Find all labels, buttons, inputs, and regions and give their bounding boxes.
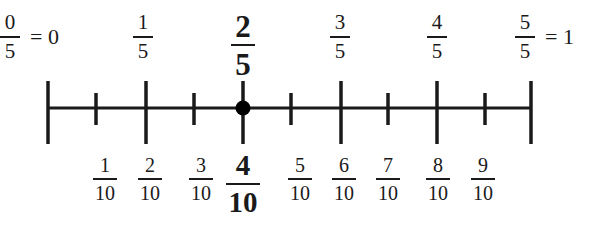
label-3-5: 3 5 — [330, 12, 350, 62]
numerator: 5 — [295, 155, 305, 175]
highlight-point — [236, 101, 251, 116]
numerator: 2 — [145, 155, 155, 175]
fraction-bar — [288, 178, 312, 180]
label-2-5: 2 5 — [231, 11, 255, 80]
denominator: 10 — [140, 183, 160, 203]
denominator: 10 — [378, 183, 398, 203]
label-5-5: 5 5 — [515, 12, 535, 62]
label-4-10: 4 10 — [226, 151, 260, 217]
fraction-bar — [189, 178, 213, 180]
equals-zero: = 0 — [30, 24, 59, 50]
numerator: 7 — [383, 155, 393, 175]
label-0-5: 0 5 — [0, 12, 20, 62]
numerator: 4 — [432, 12, 443, 33]
denominator: 10 — [290, 183, 310, 203]
label-2-10: 2 10 — [138, 155, 162, 203]
label-1-5: 1 5 — [133, 12, 153, 62]
numerator: 3 — [196, 155, 206, 175]
numerator: 8 — [433, 155, 443, 175]
fraction-bar — [231, 44, 255, 46]
denominator: 5 — [235, 49, 251, 80]
numerator: 3 — [335, 12, 346, 33]
label-1-10: 1 10 — [93, 155, 117, 203]
numerator: 9 — [478, 155, 488, 175]
numerator: 2 — [235, 11, 251, 42]
label-8-10: 8 10 — [426, 155, 450, 203]
label-5-10: 5 10 — [288, 155, 312, 203]
fraction-bar — [226, 183, 260, 185]
denominator: 5 — [5, 41, 16, 62]
fraction-bar — [138, 178, 162, 180]
fraction-bar — [93, 178, 117, 180]
denominator: 5 — [335, 41, 346, 62]
equals-one: = 1 — [545, 24, 574, 50]
denominator: 10 — [191, 183, 211, 203]
fraction-bar — [471, 178, 495, 180]
numerator: 4 — [236, 151, 251, 180]
denominator: 5 — [138, 41, 149, 62]
fraction-bar — [515, 36, 535, 38]
denominator: 10 — [229, 188, 258, 217]
denominator: 10 — [428, 183, 448, 203]
numerator: 6 — [339, 155, 349, 175]
label-9-10: 9 10 — [471, 155, 495, 203]
denominator: 10 — [334, 183, 354, 203]
denominator: 5 — [432, 41, 443, 62]
fraction-bar — [427, 36, 447, 38]
numerator: 0 — [5, 12, 16, 33]
denominator: 5 — [520, 41, 531, 62]
fraction-bar — [426, 178, 450, 180]
label-4-5: 4 5 — [427, 12, 447, 62]
label-3-10: 3 10 — [189, 155, 213, 203]
label-6-10: 6 10 — [332, 155, 356, 203]
fraction-bar — [332, 178, 356, 180]
denominator: 10 — [95, 183, 115, 203]
numerator: 5 — [520, 12, 531, 33]
fraction-bar — [133, 36, 153, 38]
numerator: 1 — [100, 155, 110, 175]
numerator: 1 — [138, 12, 149, 33]
fraction-bar — [376, 178, 400, 180]
denominator: 10 — [473, 183, 493, 203]
fraction-bar — [330, 36, 350, 38]
label-7-10: 7 10 — [376, 155, 400, 203]
fraction-bar — [0, 36, 20, 38]
